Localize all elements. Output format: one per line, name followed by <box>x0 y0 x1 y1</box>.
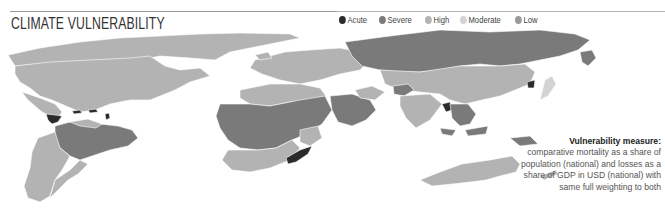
region-australia <box>420 156 520 186</box>
vulnerability-note: Vulnerability measure: comparative morta… <box>521 136 661 193</box>
region-southeast-asia <box>450 104 476 126</box>
header-rule-left <box>10 11 337 12</box>
region-india <box>400 94 442 128</box>
region-caribbean-3 <box>105 113 110 120</box>
region-japan <box>540 76 556 100</box>
region-caribbean-2 <box>88 109 98 113</box>
region-caribbean-1 <box>72 110 82 114</box>
header-rule-right <box>337 11 665 12</box>
region-central-america <box>46 114 62 124</box>
region-africa-east <box>300 126 322 146</box>
note-body: comparative mortality as a share of popu… <box>521 147 661 193</box>
region-indonesia-1 <box>440 128 456 136</box>
region-kamchatka <box>580 50 596 66</box>
region-indonesia-2 <box>465 126 488 136</box>
note-heading: Vulnerability measure: <box>569 136 661 146</box>
